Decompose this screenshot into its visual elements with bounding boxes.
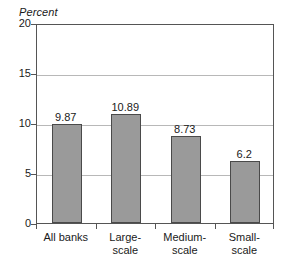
x-axis-category-label: All banks	[32, 231, 100, 244]
bar-chart-figure: Percent 05101520 9.8710.898.736.2 All ba…	[0, 0, 293, 272]
x-axis-tick-mark	[273, 224, 274, 229]
gridline	[37, 75, 273, 76]
x-axis-category-labels: All banksLarge-scaleMedium-scaleSmall-sc…	[36, 231, 274, 271]
x-axis-category-label: Small-scale	[210, 231, 278, 257]
y-axis-tick-marks	[0, 24, 36, 224]
x-axis-tick-mark	[96, 224, 97, 229]
bar	[171, 136, 201, 223]
x-axis-tick-mark	[36, 224, 37, 229]
bar-value-label: 8.73	[155, 123, 215, 135]
category-label-line: scale	[210, 244, 278, 257]
category-label-line: Small-	[210, 231, 278, 244]
category-label-line: scale	[151, 244, 219, 257]
x-axis-category-label: Large-scale	[91, 231, 159, 257]
category-label-line: Large-	[91, 231, 159, 244]
bar	[230, 161, 260, 223]
x-axis-tick-marks	[36, 224, 274, 230]
bar	[52, 124, 82, 223]
x-axis-tick-mark	[215, 224, 216, 229]
bar-value-label: 9.87	[36, 111, 96, 123]
category-label-line: All banks	[32, 231, 100, 244]
category-label-line: scale	[91, 244, 159, 257]
x-axis-tick-mark	[155, 224, 156, 229]
category-label-line: Medium-	[151, 231, 219, 244]
bar-value-label: 10.89	[95, 101, 155, 113]
x-axis-category-label: Medium-scale	[151, 231, 219, 257]
bar-value-label: 6.2	[214, 148, 274, 160]
bar	[111, 114, 141, 223]
